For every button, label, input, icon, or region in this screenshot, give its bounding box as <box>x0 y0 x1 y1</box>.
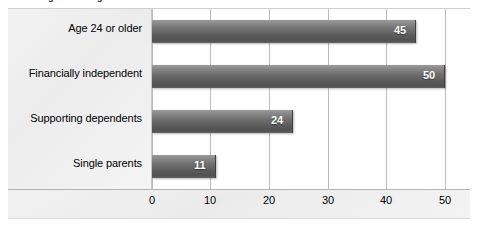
category-label: Age 24 or older <box>68 22 142 34</box>
plot-area: 45 50 24 11 <box>152 9 470 189</box>
bar-value-label: 24 <box>271 114 283 126</box>
category-label: Supporting dependents <box>30 112 142 124</box>
category-row: Supporting dependents <box>8 99 152 144</box>
category-label-panel: Age 24 or older Financially independent … <box>8 9 152 189</box>
bar-value-label: 50 <box>423 69 435 81</box>
bar-single-parents[interactable] <box>152 155 216 178</box>
chart-title: Percentage of undergraduates who are non… <box>10 0 450 3</box>
x-tick-label: 30 <box>313 194 343 206</box>
bar-age-24-or-older[interactable] <box>152 20 416 43</box>
bar-financially-independent[interactable] <box>152 65 445 88</box>
x-tick-label: 40 <box>371 194 401 206</box>
bar-value-label: 11 <box>194 159 206 171</box>
category-label: Single parents <box>73 157 142 169</box>
category-label: Financially independent <box>29 67 142 79</box>
x-tick-label: 50 <box>430 194 460 206</box>
x-tick-label: 10 <box>195 194 225 206</box>
bar-chart-figure: Percentage of undergraduates who are non… <box>0 0 478 231</box>
category-row: Age 24 or older <box>8 9 152 54</box>
bar-value-label: 45 <box>394 24 406 36</box>
category-row: Single parents <box>8 144 152 189</box>
x-tick-label: 0 <box>137 194 167 206</box>
category-row: Financially independent <box>8 54 152 99</box>
x-axis-tick-band: 0 10 20 30 40 50 <box>8 190 470 219</box>
gridline-50 <box>445 9 446 189</box>
x-tick-label: 20 <box>254 194 284 206</box>
